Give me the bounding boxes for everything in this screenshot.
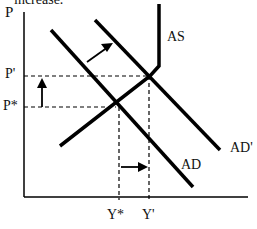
p-prime-label: P'	[5, 67, 15, 81]
y-axis-label: P	[5, 5, 13, 20]
ad-prime-curve-label: AD'	[230, 141, 253, 155]
ad-shift-arrow	[87, 47, 108, 62]
as-curve	[60, 4, 159, 146]
truncated-caption: increase.	[14, 0, 63, 7]
diagram-svg	[0, 0, 257, 229]
y-star-label: Y*	[107, 208, 124, 222]
ad-curve-label: AD	[181, 158, 201, 172]
as-curve-label: AS	[167, 30, 185, 44]
price-arrowhead-icon	[37, 78, 47, 88]
ad-as-diagram: increase. P P' P* Y* Y' AS AD AD'	[0, 0, 257, 229]
y-prime-label: Y'	[142, 208, 155, 222]
output-arrowhead-icon	[138, 162, 148, 172]
p-star-label: P*	[3, 99, 18, 113]
ad-curve	[51, 30, 193, 187]
